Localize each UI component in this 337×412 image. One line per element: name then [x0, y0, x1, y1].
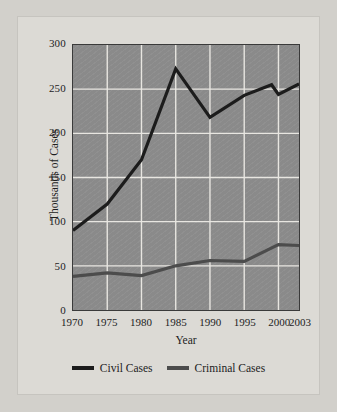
y-tick-label: 0: [34, 304, 66, 316]
x-tick-label: 1970: [61, 316, 83, 328]
legend-label: Civil Cases: [100, 362, 153, 374]
x-tick-label: 1985: [165, 316, 187, 328]
y-tick-label: 50: [34, 260, 66, 272]
plot-wrapper: [72, 44, 300, 311]
legend-swatch-line-icon: [167, 366, 189, 370]
legend-item: Criminal Cases: [167, 362, 266, 374]
x-tick-label: 1990: [199, 316, 221, 328]
x-tick-label: 1995: [234, 316, 256, 328]
legend-item: Civil Cases: [72, 362, 153, 374]
x-tick-label: 2000: [268, 316, 290, 328]
x-tick-label: 1975: [96, 316, 118, 328]
chart-legend: Civil CasesCriminal Cases: [0, 362, 337, 374]
y-tick-label: 100: [34, 215, 66, 227]
y-tick-label: 200: [34, 126, 66, 138]
x-tick-label: 1980: [130, 316, 152, 328]
y-tick-label: 250: [34, 82, 66, 94]
plot-area: [72, 44, 300, 311]
legend-swatch-line-icon: [72, 366, 94, 370]
x-tick-label: 2003: [289, 316, 311, 328]
page-background: Thousands of Cases 050100150200250300 19…: [0, 0, 337, 412]
data-series: [73, 45, 299, 310]
x-axis-label: Year: [72, 334, 300, 346]
y-tick-label: 150: [34, 171, 66, 183]
line-chart-figure: Thousands of Cases 050100150200250300 19…: [0, 0, 337, 412]
legend-label: Criminal Cases: [195, 362, 266, 374]
y-tick-label: 300: [34, 37, 66, 49]
